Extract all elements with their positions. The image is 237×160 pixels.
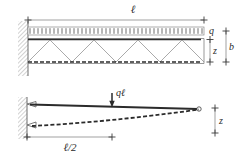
point-load-arrow: [109, 93, 114, 108]
half-span-label: ℓ/2: [63, 141, 77, 153]
half-span-dimension: [24, 134, 116, 141]
deflection-dimension-z: [212, 105, 219, 137]
truss-web-members: [28, 40, 204, 62]
point-load-label: qℓ: [116, 87, 125, 98]
structural-diagram: ℓ: [0, 0, 237, 160]
wall-support-upper: [18, 21, 28, 76]
band-label-b: b: [229, 41, 234, 52]
beam-line: [30, 105, 198, 110]
lower-diagram: qℓ ℓ/2 z: [18, 87, 223, 153]
depth-label-z: z: [212, 45, 217, 56]
deflection-label-z: z: [218, 115, 223, 126]
udl-label: q: [209, 25, 214, 36]
span-dimension-upper: [25, 17, 208, 24]
free-end-marker: [197, 107, 201, 111]
truss-outline: [28, 39, 204, 64]
span-label: ℓ: [131, 3, 136, 15]
wall-support-lower: [18, 97, 27, 139]
deflection-curve: [32, 110, 199, 127]
figure-root: ℓ: [0, 0, 237, 160]
upper-diagram: ℓ: [18, 3, 234, 76]
distributed-load-band: [28, 27, 204, 35]
